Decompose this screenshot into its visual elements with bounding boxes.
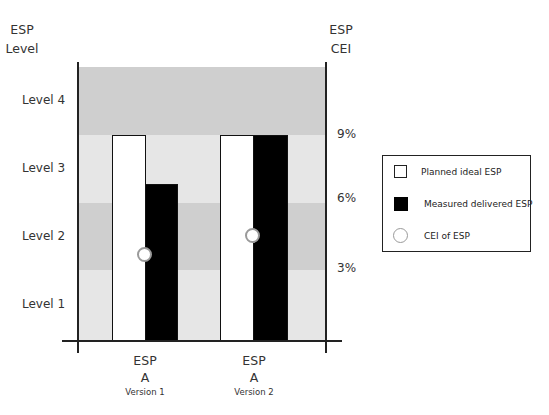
- left-axis-title: ESP Level: [2, 20, 42, 58]
- left-axis-title-line1: ESP: [2, 20, 42, 39]
- legend-item-cei: CEI of ESP: [393, 228, 470, 243]
- left-axis-title-line2: Level: [2, 39, 42, 58]
- legend-label-measured: Measured delivered ESP: [424, 199, 532, 209]
- x-category-1-line1: ESP: [105, 352, 185, 369]
- right-tick-6pct: 6%: [337, 191, 356, 205]
- left-tick-level-4: Level 4: [22, 93, 65, 107]
- x-category-2-line3: Version 2: [214, 386, 294, 398]
- legend-item-measured: Measured delivered ESP: [394, 197, 532, 211]
- cei-marker-version-1: [137, 247, 152, 262]
- white-square-icon: [394, 165, 407, 178]
- legend-label-cei: CEI of ESP: [424, 231, 470, 241]
- left-axis-line: [77, 62, 79, 353]
- bar-planned-version-1: [112, 135, 146, 341]
- x-category-1-line2: A: [105, 369, 185, 386]
- right-axis-title: ESP CEI: [326, 20, 356, 58]
- legend: Planned ideal ESP Measured delivered ESP…: [382, 155, 531, 252]
- right-tick-9pct: 9%: [337, 127, 356, 141]
- x-category-1-line3: Version 1: [105, 386, 185, 398]
- right-axis-title-line1: ESP: [326, 20, 356, 39]
- cei-marker-version-2: [245, 228, 260, 243]
- right-axis-line: [325, 62, 327, 353]
- legend-label-planned: Planned ideal ESP: [421, 167, 501, 177]
- left-tick-level-3: Level 3: [22, 161, 65, 175]
- circle-icon: [393, 228, 408, 243]
- right-tick-3pct: 3%: [337, 261, 356, 275]
- x-axis-baseline: [62, 340, 342, 342]
- left-tick-level-2: Level 2: [22, 229, 65, 243]
- right-axis-title-line2: CEI: [326, 39, 356, 58]
- x-category-2-line2: A: [214, 369, 294, 386]
- black-square-icon: [394, 197, 408, 211]
- bar-measured-version-1: [145, 184, 178, 341]
- band-level-4: [78, 67, 325, 135]
- legend-item-planned: Planned ideal ESP: [394, 165, 501, 178]
- x-category-version-1: ESP A Version 1: [105, 352, 185, 398]
- left-tick-level-1: Level 1: [22, 297, 65, 311]
- x-category-2-line1: ESP: [214, 352, 294, 369]
- x-category-version-2: ESP A Version 2: [214, 352, 294, 398]
